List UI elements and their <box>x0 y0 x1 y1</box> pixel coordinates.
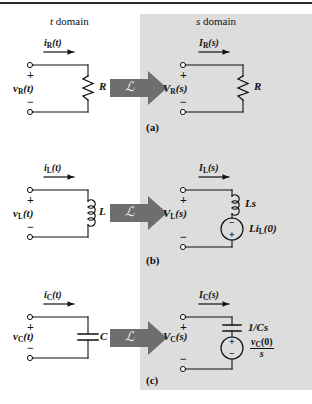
laplace-arrow-resistor <box>110 71 167 105</box>
polarity-minus-t-resistor: − <box>27 96 34 108</box>
voltage-label-vR-t: vR(t) <box>13 83 34 94</box>
caption-b: (b) <box>146 255 159 266</box>
laplace-arrow-capacitor <box>110 321 167 355</box>
element-label-L-t: L <box>99 206 106 217</box>
polarity-minus-s-resistor: − <box>180 96 187 108</box>
source-label-vC0-over-s: vC(0) s <box>250 337 274 359</box>
laplace-circuit-figure: t domain s domain <box>0 0 312 404</box>
source-bottom-sign-inductor: + <box>229 230 235 240</box>
voltage-label-VL-s: VL(s) <box>163 208 187 219</box>
current-label-IC-s: IC(s) <box>199 290 219 300</box>
current-label-IR-s: IR(s) <box>199 38 219 48</box>
polarity-plus-t-inductor: + <box>27 194 34 206</box>
element-label-1overCs-s: 1/Cs <box>248 322 268 333</box>
element-label-R-s: R <box>254 81 261 92</box>
source-label-LiL0: LiL(0) <box>249 223 277 234</box>
source-bottom-sign-capacitor: − <box>229 349 235 359</box>
element-label-R-t: R <box>99 81 106 92</box>
laplace-symbol-capacitor: ℒ <box>125 330 134 343</box>
laplace-arrow-group <box>110 71 167 355</box>
laplace-arrow-inductor <box>110 196 167 230</box>
voltage-label-vL-t: vL(t) <box>13 208 33 219</box>
source-top-sign-inductor: − <box>229 218 235 228</box>
element-label-Ls-s: Ls <box>245 198 256 209</box>
polarity-plus-s-inductor: + <box>180 194 187 206</box>
current-label-iR-t: iR(t) <box>44 38 62 48</box>
laplace-symbol-resistor: ℒ <box>125 80 134 93</box>
element-label-C-t: C <box>100 331 107 342</box>
polarity-plus-s-resistor: + <box>180 69 187 81</box>
current-label-iC-t: iC(t) <box>44 290 62 300</box>
voltage-label-vC-t: vC(t) <box>13 331 34 342</box>
caption-a: (a) <box>146 122 159 133</box>
polarity-minus-s-inductor: − <box>180 231 187 243</box>
current-label-iL-t: iL(t) <box>44 163 61 173</box>
polarity-minus-t-inductor: − <box>27 221 34 233</box>
laplace-symbol-inductor: ℒ <box>125 205 134 218</box>
voltage-label-VR-s: VR(s) <box>163 83 187 94</box>
current-label-IL-s: IL(s) <box>199 163 218 173</box>
polarity-plus-t-resistor: + <box>27 69 34 81</box>
voltage-label-VC-s: VC(s) <box>163 331 187 342</box>
caption-c: (c) <box>146 375 158 386</box>
polarity-minus-t-capacitor: − <box>27 342 34 354</box>
polarity-minus-s-capacitor: − <box>180 353 187 365</box>
source-top-sign-capacitor: + <box>229 337 235 347</box>
